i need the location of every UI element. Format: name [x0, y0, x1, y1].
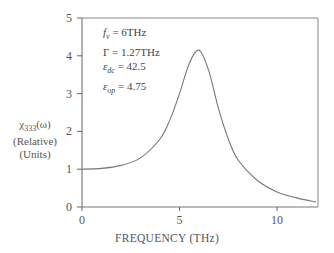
y-tick-label: 1 [66, 162, 72, 176]
x-tick-label: 0 [79, 213, 85, 227]
y-tick-label: 5 [66, 11, 72, 25]
param-fv-value: = 6THz [110, 26, 147, 38]
param-eop-value: = 4.75 [115, 80, 146, 92]
y-tick-label: 3 [66, 87, 72, 101]
parameter-annotations: fv = 6THz Γ = 1.27THz εdc = 42.5 εop = 4… [103, 25, 160, 99]
y-tick-label: 4 [66, 49, 72, 63]
y-ticks: 012345 [66, 11, 82, 214]
param-edc-value: = 42.5 [115, 60, 146, 72]
y-axis-label: χ333(ω) (Relative) (Units) [6, 118, 64, 161]
param-edc-sub: dc [107, 66, 115, 75]
y-tick-label: 2 [66, 124, 72, 138]
x-tick-label: 10 [271, 213, 283, 227]
x-ticks: 0510 [79, 207, 283, 227]
ylabel-sub: 333 [24, 124, 36, 133]
ylabel-relative: (Relative) [6, 135, 64, 148]
ylabel-omega: (ω) [36, 118, 51, 130]
ylabel-units: (Units) [6, 148, 64, 161]
x-tick-label: 5 [177, 213, 183, 227]
param-gamma-value: = 1.27THz [109, 46, 160, 58]
y-tick-label: 0 [66, 200, 72, 214]
x-axis-label: FREQUENCY (THz) [0, 232, 334, 244]
